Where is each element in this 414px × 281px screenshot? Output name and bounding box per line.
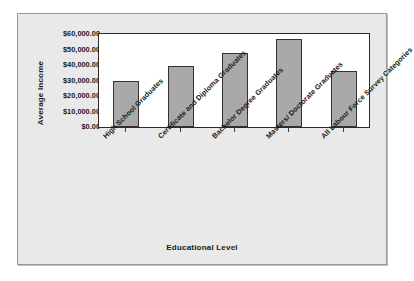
bar-chart: Average Income $0.00$10,000.00$20,000.00… bbox=[17, 13, 387, 265]
y-axis-tick-label: $60,000.00 bbox=[44, 30, 100, 38]
y-axis-tick-label: $10,000.00 bbox=[44, 108, 100, 116]
x-axis-tick-mark bbox=[343, 128, 344, 132]
x-axis-tick-mark bbox=[125, 128, 126, 132]
x-axis-title: Educational Level bbox=[18, 243, 386, 252]
y-axis-tick-label: $0.00 bbox=[44, 123, 100, 131]
y-axis-tick-label: $30,000.00 bbox=[44, 77, 100, 85]
y-axis-tick-label: $50,000.00 bbox=[44, 46, 100, 54]
y-axis-tick-labels: $0.00$10,000.00$20,000.00$30,000.00$40,0… bbox=[44, 40, 100, 145]
y-axis-tick-label: $20,000.00 bbox=[44, 92, 100, 100]
x-axis-tick-mark bbox=[288, 128, 289, 132]
y-axis-tick-label: $40,000.00 bbox=[44, 61, 100, 69]
x-axis-tick-mark bbox=[180, 128, 181, 132]
x-axis-tick-mark bbox=[234, 128, 235, 132]
